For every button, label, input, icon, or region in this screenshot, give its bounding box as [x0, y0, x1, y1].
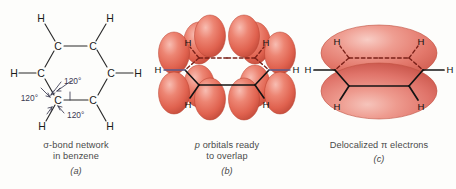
- panel-a-letter: (a): [0, 166, 152, 177]
- atom-label-h: H: [334, 101, 341, 112]
- atom-label-c: C: [37, 67, 45, 79]
- angle-label-120-upper: 120°: [64, 76, 81, 86]
- atom-label-h: H: [106, 12, 114, 24]
- atom-label-h: H: [334, 36, 341, 47]
- atom-label-h: H: [37, 12, 45, 24]
- atom-label-h: H: [155, 64, 162, 75]
- benzene-bonding-figure: C C C C C C H H H H H H: [0, 0, 456, 189]
- panel-c-caption-line-1: Delocalized π electrons: [302, 140, 456, 151]
- atom-label-h: H: [263, 37, 270, 48]
- atom-label-h: H: [185, 37, 192, 48]
- panel-c-letter: (c): [302, 154, 456, 165]
- panel-a-caption: σ-bond network in benzene (a): [0, 140, 152, 177]
- atom-label-h: H: [134, 67, 142, 79]
- panel-c-delocalized-pi: H H H H H H Delocalized π electrons (c): [302, 0, 456, 189]
- atom-label-h: H: [418, 36, 425, 47]
- panel-a-caption-line-1: σ-bond network: [0, 140, 152, 151]
- atom-label-h: H: [418, 101, 425, 112]
- panel-b-p-orbitals: H H H H H H p orbitals ready to overlap …: [152, 0, 302, 189]
- atom-label-h: H: [263, 99, 270, 110]
- panel-a-artwork: C C C C C C H H H H H H: [0, 0, 152, 140]
- atom-label-h: H: [293, 64, 300, 75]
- atom-label-c: C: [107, 67, 115, 79]
- atom-label-c: C: [54, 94, 62, 106]
- atom-label-h: H: [447, 64, 454, 75]
- panel-b-caption: p orbitals ready to overlap (b): [152, 140, 302, 177]
- panel-c-artwork: H H H H H H: [302, 0, 456, 140]
- angle-label-120-lower: 120°: [67, 110, 84, 120]
- panel-b-artwork: H H H H H H: [152, 0, 302, 140]
- atom-label-c: C: [89, 40, 97, 52]
- atom-label-h: H: [106, 120, 114, 132]
- angle-label-120-left: 120°: [21, 93, 38, 103]
- p-orbital-lobes: [159, 15, 296, 120]
- panel-b-letter: (b): [152, 166, 302, 177]
- atom-label-h: H: [185, 99, 192, 110]
- atom-label-c: C: [54, 40, 62, 52]
- panel-a-sigma-bond-network: C C C C C C H H H H H H: [0, 0, 152, 189]
- atom-label-h: H: [305, 64, 312, 75]
- atom-label-h: H: [10, 67, 18, 79]
- panel-a-caption-line-2: in benzene: [0, 151, 152, 162]
- atom-label-h: H: [38, 120, 46, 132]
- panel-b-caption-line-2: to overlap: [152, 151, 302, 162]
- atom-label-c: C: [89, 94, 97, 106]
- panel-b-caption-line-1: p orbitals ready: [152, 140, 302, 151]
- panel-c-caption: Delocalized π electrons (c): [302, 140, 456, 166]
